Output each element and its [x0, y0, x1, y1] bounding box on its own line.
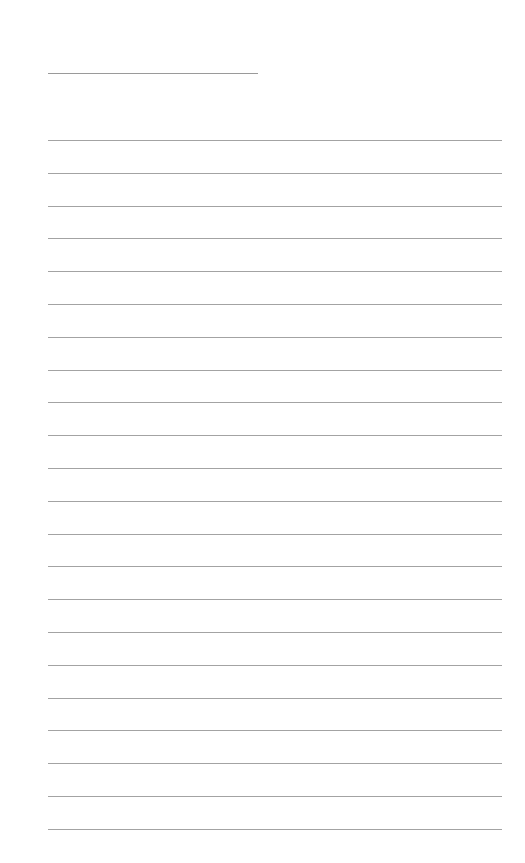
- ruled-line: [48, 206, 502, 207]
- ruled-line: [48, 566, 502, 567]
- ruled-line: [48, 796, 502, 797]
- ruled-line: [48, 173, 502, 174]
- ruled-line: [48, 304, 502, 305]
- ruled-line: [48, 435, 502, 436]
- ruled-line: [48, 402, 502, 403]
- ruled-line: [48, 665, 502, 666]
- ruled-line: [48, 140, 502, 141]
- ruled-line: [48, 370, 502, 371]
- title-line: [48, 73, 258, 74]
- ruled-line: [48, 501, 502, 502]
- ruled-line: [48, 632, 502, 633]
- lined-paper-page: [0, 0, 525, 863]
- ruled-line: [48, 238, 502, 239]
- ruled-line: [48, 337, 502, 338]
- ruled-line: [48, 698, 502, 699]
- ruled-line: [48, 599, 502, 600]
- ruled-line: [48, 763, 502, 764]
- ruled-line: [48, 730, 502, 731]
- ruled-line: [48, 829, 502, 830]
- ruled-line: [48, 271, 502, 272]
- ruled-line: [48, 468, 502, 469]
- ruled-line: [48, 534, 502, 535]
